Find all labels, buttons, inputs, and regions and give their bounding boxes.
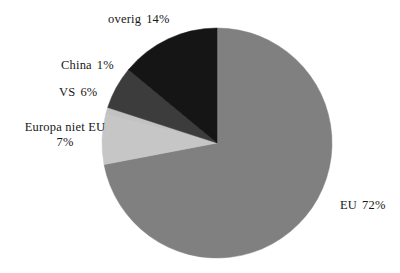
pie-chart-page: overig14% China1% VS6% Europa niet EU7% … <box>0 0 400 273</box>
pie-label-china: China1% <box>61 58 114 73</box>
pie-label-china-name: China <box>61 58 92 72</box>
pie-label-eu-value: 72% <box>362 198 386 212</box>
pie-label-europa-niet-eu-value: 7% <box>11 135 119 150</box>
pie-label-overig-name: overig <box>108 12 141 26</box>
pie-label-eu: EU72% <box>340 198 386 213</box>
pie-label-vs-name: VS <box>59 85 75 99</box>
pie-label-europa-niet-eu: Europa niet EU7% <box>11 120 119 150</box>
pie-label-europa-niet-eu-name: Europa niet EU <box>25 120 106 134</box>
pie-label-china-value: 1% <box>97 58 114 72</box>
pie-label-vs: VS6% <box>59 85 97 100</box>
pie-label-overig: overig14% <box>108 12 170 27</box>
pie-label-eu-name: EU <box>340 198 357 212</box>
pie-label-vs-value: 6% <box>80 85 97 99</box>
pie-label-overig-value: 14% <box>146 12 170 26</box>
